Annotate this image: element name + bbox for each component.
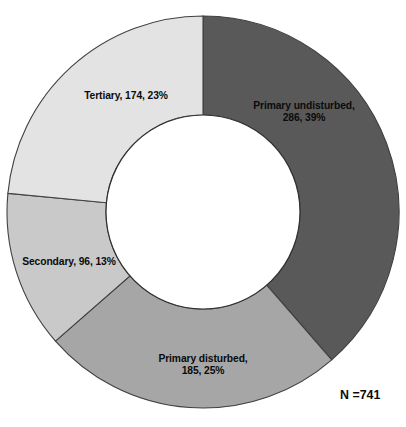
donut-chart-svg <box>0 0 406 427</box>
total-count-annotation: N =741 <box>340 388 380 402</box>
donut-chart-figure: Primary undisturbed, 286, 39% Primary di… <box>0 0 406 427</box>
donut-center-hole <box>106 115 300 309</box>
